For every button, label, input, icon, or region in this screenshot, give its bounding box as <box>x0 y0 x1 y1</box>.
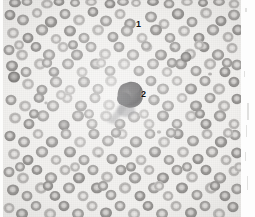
annotation-label-1: 1 <box>136 20 141 29</box>
scan-artifact <box>247 103 249 120</box>
micrograph-plate: 1 2 <box>3 0 241 217</box>
right-page-margin <box>241 0 255 217</box>
scan-artifact <box>247 176 248 190</box>
scan-artifact <box>245 8 247 12</box>
scan-artifact <box>245 152 246 161</box>
scan-artifact <box>246 125 247 137</box>
annotation-label-2: 2 <box>141 90 146 99</box>
scan-artifact <box>244 71 245 77</box>
blood-cell-field <box>3 0 241 217</box>
blood-smear-figure: 1 2 <box>0 0 255 217</box>
